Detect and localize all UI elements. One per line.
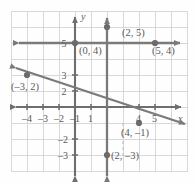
point-2-neg3 [104, 152, 110, 158]
point-label-4-neg1: (4, –1) [121, 127, 149, 139]
point-label-5-4: (5, 4) [152, 45, 175, 57]
xtick-label-neg3: –3 [37, 113, 48, 124]
point-label-0-4: (0, 4) [79, 45, 102, 57]
xtick-label-neg1: –1 [69, 113, 80, 124]
xtick-label-neg2: –2 [53, 113, 64, 124]
point-label-neg3-2: (–3, 2) [11, 81, 39, 93]
xtick-label-5: 5 [152, 113, 157, 124]
point-label-2-neg3: (2, –3) [111, 150, 139, 162]
point-0-4 [72, 40, 78, 46]
ytick-label-neg2: –2 [57, 134, 68, 145]
y-axis-label: y [80, 11, 86, 22]
point-label-2-5: (2, 5) [122, 27, 145, 39]
graphed-lines [16, 18, 185, 176]
ytick-label-2: 2 [62, 86, 67, 97]
xtick-label-4: 4 [136, 113, 141, 124]
graph-figure: x y –4 –3 –2 –1 1 4 [0, 0, 195, 183]
ytick-label-neg3: –3 [57, 150, 68, 161]
xtick-label-neg4: –4 [21, 113, 32, 124]
ytick-label-5: 5 [62, 38, 67, 49]
point-2-5 [104, 24, 110, 30]
xtick-label-1: 1 [88, 113, 93, 124]
coordinate-plane-svg: x y –4 –3 –2 –1 1 4 [0, 0, 195, 183]
point-neg3-2 [24, 72, 30, 78]
ytick-label-3: 3 [62, 70, 67, 81]
